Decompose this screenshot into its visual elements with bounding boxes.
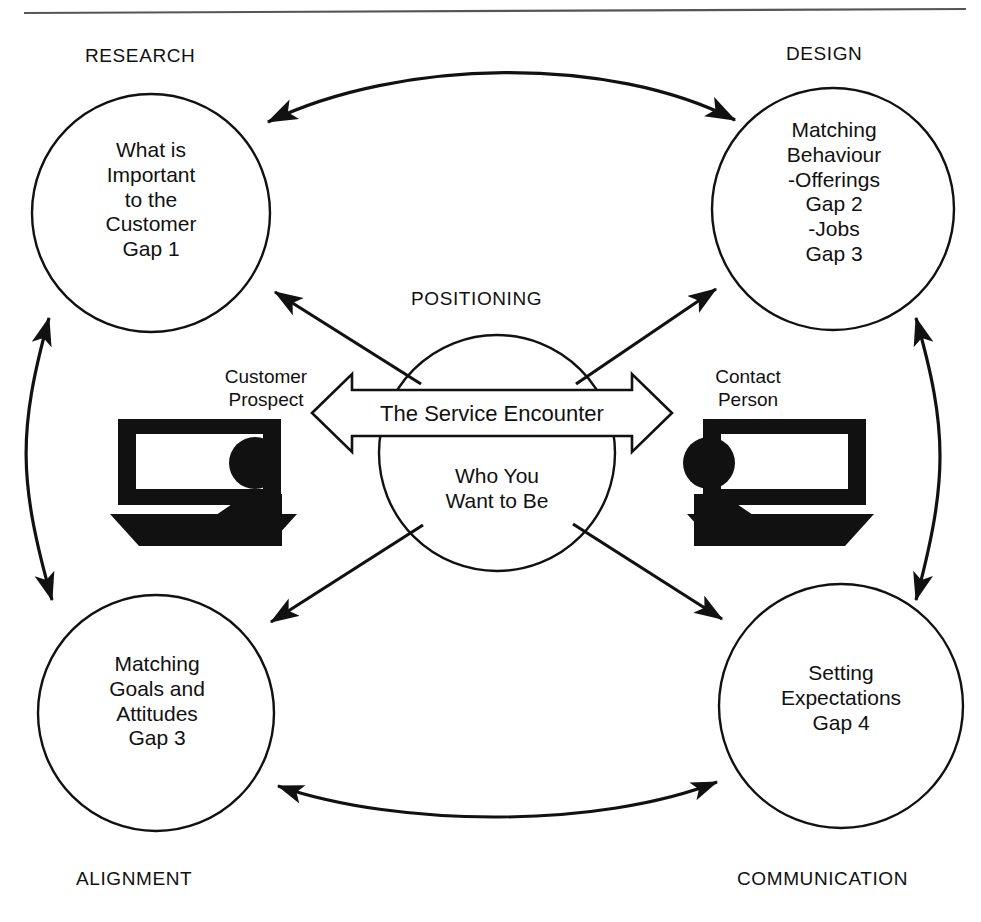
top-divider-rule — [24, 9, 966, 13]
arrow-research-design — [268, 73, 735, 122]
section-label-research: RESEARCH — [85, 45, 195, 67]
alignment-circle-shape[interactable] — [38, 595, 274, 831]
center-section-label: POSITIONING — [411, 288, 542, 310]
arrow-center-to-alignment — [271, 525, 423, 622]
customer-prospect-label: Customer Prospect — [198, 366, 334, 412]
positioning-circle-shape[interactable] — [379, 335, 615, 571]
research-circle-shape[interactable] — [32, 94, 270, 332]
contact-person-label: Contact Person — [688, 366, 808, 412]
customer-prospect-icon — [110, 419, 297, 546]
arrow-alignment-communication — [278, 782, 717, 817]
diagram-svg — [0, 0, 981, 922]
arrow-design-communication — [916, 318, 940, 600]
contact-person-icon — [683, 419, 874, 546]
section-label-communication: COMMUNICATION — [737, 868, 908, 890]
section-label-alignment: ALIGNMENT — [76, 868, 192, 890]
section-label-design: DESIGN — [786, 43, 862, 65]
communication-circle-shape[interactable] — [719, 584, 963, 828]
service-encounter-label: The Service Encounter — [352, 401, 632, 427]
arrow-research-alignment — [26, 318, 52, 600]
design-circle-shape[interactable] — [712, 88, 954, 330]
diagram-canvas: RESEARCH DESIGN ALIGNMENT COMMUNICATION … — [0, 0, 981, 922]
